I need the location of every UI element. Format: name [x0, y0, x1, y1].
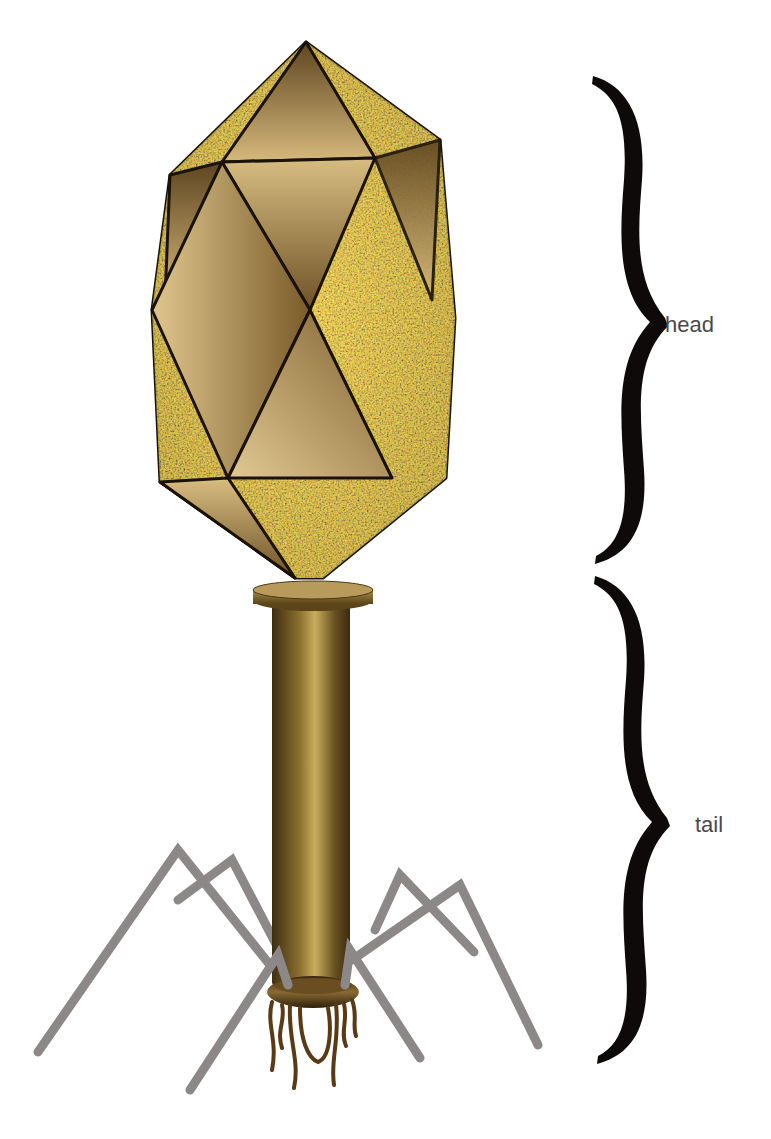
tail-label: tail	[695, 812, 723, 838]
tail-brace	[594, 576, 670, 1064]
tail-pins	[270, 1000, 356, 1088]
phage-illustration	[0, 0, 771, 1139]
head-capsid	[152, 42, 455, 578]
head-brace	[592, 76, 668, 564]
head-label: head	[665, 312, 714, 338]
collar	[253, 581, 373, 611]
bacteriophage-diagram: head tail	[0, 0, 771, 1139]
tail-sheath	[272, 600, 350, 988]
